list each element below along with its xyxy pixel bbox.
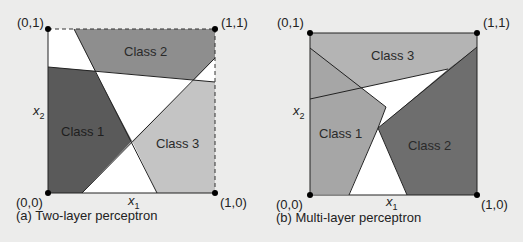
class-2-label: Class 2 [408, 138, 451, 153]
x2-axis-label: x2 [293, 103, 305, 121]
class-3-label: Class 3 [156, 136, 199, 151]
class-1-label: Class 1 [61, 124, 104, 139]
panel-multi-layer-perceptron: (0,1) (1,1) (0,0) (1,0) Class 3 Class 1 … [260, 0, 523, 242]
corner-label-top-right: (1,1) [483, 15, 510, 30]
corner-dot [45, 190, 51, 196]
class-3-label: Class 3 [371, 48, 414, 63]
corner-label-bottom-right: (1,0) [481, 197, 508, 212]
corner-dot [474, 30, 480, 36]
caption-b: (b) Multi-layer perceptron [276, 210, 421, 225]
corner-dot [45, 26, 51, 32]
corner-dot [212, 26, 218, 32]
corner-label-top-left: (0,1) [17, 15, 44, 30]
class-2-label: Class 2 [124, 44, 167, 59]
x1-axis-label: x1 [386, 194, 398, 212]
x2-axis-sub: 2 [300, 111, 305, 121]
class-1-label: Class 1 [319, 126, 362, 141]
corner-label-top-left: (0,1) [277, 15, 304, 30]
corner-dot [307, 192, 313, 198]
figure: (0,1) (1,1) (0,0) (1,0) Class 2 Class 1 … [0, 0, 523, 242]
corner-dot [474, 192, 480, 198]
corner-dot [212, 190, 218, 196]
panel-two-layer-perceptron: (0,1) (1,1) (0,0) (1,0) Class 2 Class 1 … [0, 0, 260, 242]
corner-dot [307, 30, 313, 36]
corner-label-bottom-right: (1,0) [220, 195, 247, 210]
caption-a: (a) Two-layer perceptron [16, 208, 157, 223]
corner-label-top-right: (1,1) [221, 15, 248, 30]
x2-axis-label: x2 [33, 103, 45, 121]
x2-axis-sub: 2 [40, 111, 45, 121]
